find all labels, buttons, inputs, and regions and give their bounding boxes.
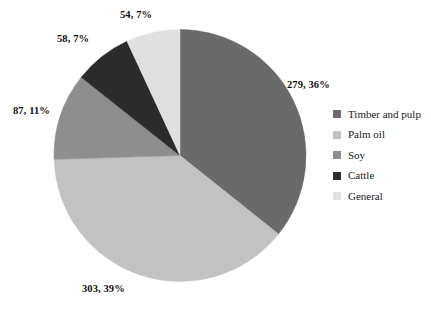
- legend-swatch-icon: [333, 192, 341, 200]
- chart-legend: Timber and pulp Palm oil Soy Cattle Gene…: [333, 108, 421, 202]
- pie-chart: 279, 36% 303, 39% 87, 11% 58, 7% 54, 7% …: [0, 0, 431, 311]
- legend-item-label: Cattle: [348, 170, 374, 181]
- legend-swatch-icon: [333, 110, 341, 118]
- data-label-soy: 87, 11%: [13, 105, 50, 116]
- legend-item-timber-and-pulp: Timber and pulp: [333, 108, 421, 120]
- legend-item-palm-oil: Palm oil: [333, 129, 421, 141]
- data-label-timber-and-pulp: 279, 36%: [287, 79, 330, 90]
- legend-item-label: Timber and pulp: [348, 109, 421, 120]
- legend-swatch-icon: [333, 131, 341, 139]
- pie-slice-group: [54, 30, 306, 282]
- legend-item-label: Palm oil: [348, 129, 385, 140]
- legend-item-label: Soy: [348, 150, 365, 161]
- legend-swatch-icon: [333, 151, 341, 159]
- legend-item-label: General: [348, 191, 383, 202]
- data-label-general: 54, 7%: [120, 9, 152, 20]
- data-label-palm-oil: 303, 39%: [82, 283, 125, 294]
- legend-swatch-icon: [333, 172, 341, 180]
- legend-item-general: General: [333, 190, 421, 202]
- legend-item-soy: Soy: [333, 149, 421, 161]
- legend-item-cattle: Cattle: [333, 170, 421, 182]
- data-label-cattle: 58, 7%: [57, 33, 89, 44]
